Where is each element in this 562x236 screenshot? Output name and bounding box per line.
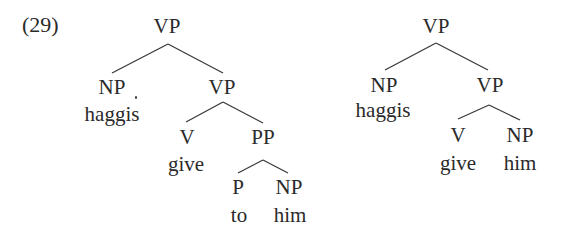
edge-vp-np2 xyxy=(489,105,520,120)
stray-mark xyxy=(135,96,137,99)
node-vp-inner: VP xyxy=(477,75,504,96)
edge-vp-pp xyxy=(223,102,263,123)
node-np: NP xyxy=(371,75,398,96)
node-np2: NP xyxy=(507,125,534,146)
node-p: P xyxy=(232,177,244,198)
node-v: V xyxy=(450,125,465,146)
node-vp-root: VP xyxy=(423,16,450,37)
word-to: to xyxy=(231,205,247,226)
syntax-tree-figure: (29) VP NP haggis VP V give PP P to NP xyxy=(0,0,562,236)
edge-vp-np xyxy=(112,44,168,73)
node-vp-root: VP xyxy=(154,16,181,37)
node-pp: PP xyxy=(251,127,274,148)
node-np2: NP xyxy=(276,177,303,198)
node-np: NP xyxy=(99,77,126,98)
node-v: V xyxy=(179,127,194,148)
edge-vp-np xyxy=(385,43,436,70)
edge-vp-v xyxy=(458,105,489,119)
word-give: give xyxy=(168,154,204,175)
edge-vp-vp xyxy=(436,43,488,70)
edge-pp-np xyxy=(263,160,288,173)
word-haggis: haggis xyxy=(85,104,140,125)
edge-vp-vp xyxy=(168,44,223,73)
node-vp-inner: VP xyxy=(209,77,236,98)
word-give: give xyxy=(440,153,476,174)
edge-pp-p xyxy=(238,160,263,173)
edge-vp-v xyxy=(186,102,223,122)
word-haggis: haggis xyxy=(356,100,411,121)
word-him: him xyxy=(504,153,537,174)
word-him: him xyxy=(274,205,307,226)
